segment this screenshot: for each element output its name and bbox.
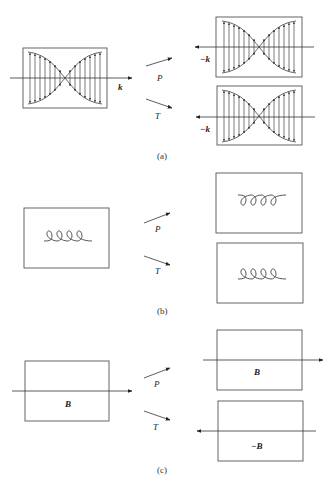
frame	[216, 173, 302, 233]
panel-c-time-reversal: −B	[197, 401, 316, 461]
panel-b: P T (b)	[24, 173, 303, 316]
panel-c: B P T B −B (c)	[12, 330, 323, 475]
caption-a: (a)	[157, 151, 167, 161]
panel-c-original: B	[12, 361, 132, 421]
panel-c-parity: B	[203, 330, 323, 390]
panel-a: k P T −k −k (a)	[10, 17, 315, 161]
minus-k-label: −k	[200, 54, 210, 64]
frame	[24, 208, 109, 268]
coil-inverted	[238, 195, 286, 205]
time-reversal-arrow	[146, 99, 172, 108]
panel-b-time-reversal	[217, 243, 303, 303]
time-reversal-label: T	[155, 111, 161, 121]
panel-a-parity: −k	[195, 17, 314, 77]
minus-k-label: −k	[200, 124, 210, 134]
panel-a-time-reversal: −k	[196, 86, 315, 145]
parity-arrow	[144, 213, 170, 223]
caption-b: (b)	[157, 306, 168, 316]
frame	[217, 243, 303, 303]
parity-label: P	[156, 73, 163, 83]
parity-label: P	[154, 224, 161, 234]
time-reversal-label: T	[155, 266, 161, 276]
wave-packet	[222, 90, 296, 142]
coil	[238, 269, 286, 279]
symmetry-figure: k P T −k −k (a) P T	[0, 0, 336, 491]
time-reversal-arrow	[144, 256, 170, 265]
parity-label: P	[153, 379, 160, 389]
minus-b-label: −B	[251, 441, 262, 451]
b-label: B	[253, 367, 260, 377]
parity-arrow	[144, 368, 170, 378]
k-label: k	[118, 82, 123, 92]
panel-b-original	[24, 208, 109, 268]
parity-arrow	[146, 58, 172, 66]
panel-a-original: k	[10, 48, 132, 108]
coil	[44, 231, 92, 241]
panel-b-parity	[216, 173, 302, 233]
caption-c: (c)	[157, 465, 167, 475]
time-reversal-arrow	[144, 411, 170, 420]
time-reversal-label: T	[153, 422, 159, 432]
b-label: B	[64, 399, 71, 409]
